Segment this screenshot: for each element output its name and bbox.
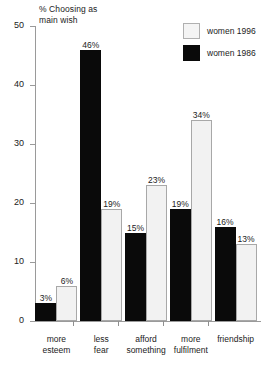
bar: 15% bbox=[125, 233, 146, 322]
bar-value-label: 34% bbox=[193, 110, 210, 120]
y-axis-tick-label: 40 bbox=[2, 79, 24, 89]
bar-value-label: 6% bbox=[61, 276, 73, 286]
y-axis-tick-label: 30 bbox=[2, 138, 24, 148]
bar-value-label: 19% bbox=[103, 199, 120, 209]
y-axis-tick-label: 50 bbox=[2, 20, 24, 30]
bar: 6% bbox=[56, 286, 77, 321]
legend-label: women 1986 bbox=[207, 48, 256, 58]
legend-swatch-icon bbox=[183, 45, 200, 61]
bar-value-label: 23% bbox=[148, 175, 165, 185]
bar: 34% bbox=[191, 120, 212, 321]
y-axis-tick-label: 10 bbox=[2, 256, 24, 266]
x-axis-separator-tick bbox=[163, 321, 164, 326]
y-axis-tick-label: 20 bbox=[2, 197, 24, 207]
x-axis-separator-tick bbox=[73, 321, 74, 326]
bar: 23% bbox=[146, 185, 167, 321]
bar: 46% bbox=[80, 50, 101, 321]
bar-value-label: 13% bbox=[238, 234, 255, 244]
bar: 13% bbox=[236, 244, 257, 321]
legend-swatch-icon bbox=[183, 23, 200, 39]
bar-value-label: 46% bbox=[82, 40, 99, 50]
bar: 19% bbox=[170, 209, 191, 321]
bar-value-label: 19% bbox=[172, 199, 189, 209]
bar: 16% bbox=[215, 227, 236, 321]
legend-label: women 1996 bbox=[207, 26, 256, 36]
x-axis-separator-tick bbox=[118, 321, 119, 326]
bar-value-label: 16% bbox=[217, 217, 234, 227]
y-axis-tick-label: 0 bbox=[2, 315, 24, 325]
bar-chart: % Choosing as main wish 01020304050 3%6%… bbox=[0, 0, 267, 369]
x-axis-category-label: friendship bbox=[210, 334, 262, 345]
x-axis-separator-tick bbox=[208, 321, 209, 326]
plot-area: 3%6%46%19%15%23%19%34%16%13% bbox=[36, 26, 260, 321]
y-axis-title: % Choosing as main wish bbox=[39, 4, 97, 25]
bar: 19% bbox=[101, 209, 122, 321]
bar-value-label: 3% bbox=[40, 293, 52, 303]
x-axis-line bbox=[35, 321, 261, 322]
bar: 3% bbox=[35, 303, 56, 321]
bar-value-label: 15% bbox=[127, 223, 144, 233]
